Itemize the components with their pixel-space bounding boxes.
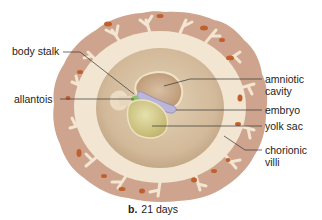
label-allantois: allantois [14,93,53,105]
label-yolk-sac: yolk sac [265,120,303,132]
label-chorionic-villi-line1: chorionic [265,144,307,156]
figure-caption: b.21 days [128,203,178,215]
embryo-diagram: body stalk allantois amniotic cavity emb… [0,0,322,220]
label-body-stalk: body stalk [12,45,59,57]
label-embryo: embryo [265,104,300,116]
caption-letter: b. [128,203,137,215]
label-amniotic-cavity-line1: amniotic [265,73,304,85]
label-chorionic-villi-line2: villi [265,156,280,168]
caption-text: 21 days [141,203,178,215]
label-amniotic-cavity-line2: cavity [265,85,292,97]
